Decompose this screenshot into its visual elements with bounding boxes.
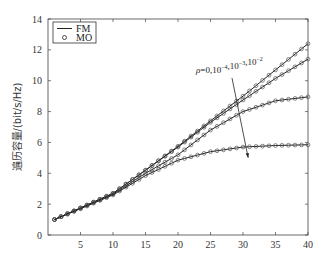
series-1: [53, 57, 310, 221]
series-line: [55, 59, 309, 219]
y-tick-label: 8: [37, 106, 42, 117]
annotation-base: =0,10: [200, 65, 221, 75]
annotation-text: ρ=0,10−4,10−3,10−2: [195, 56, 263, 75]
annotation-base: ,10: [245, 57, 257, 67]
x-tick-label: 25: [206, 239, 216, 250]
annotation-exponent: −2: [256, 56, 262, 62]
series-layer: [53, 42, 310, 222]
y-tick-label: 12: [32, 44, 42, 55]
x-tick-label: 20: [173, 239, 183, 250]
annotation-arrow-line: [232, 78, 248, 158]
x-tick-label: 35: [271, 239, 281, 250]
series-line: [55, 44, 309, 220]
legend-label-mo: MO: [76, 32, 92, 43]
axes-frame: [48, 19, 308, 235]
y-tick-label: 14: [32, 14, 42, 25]
x-tick-label: 5: [78, 239, 83, 250]
chart: 51015202530354002468101214 ρ=0,10−4,10−3…: [0, 0, 331, 263]
data-point: [53, 218, 57, 222]
x-tick-label: 40: [303, 239, 313, 250]
axis-ticks: 51015202530354002468101214: [32, 14, 313, 251]
y-axis-label: 遍历容量/(bit/s/Hz): [11, 82, 23, 171]
series-line: [55, 145, 309, 220]
series-2: [53, 95, 310, 221]
plot-area-border: [48, 19, 308, 235]
x-tick-label: 15: [141, 239, 151, 250]
legend: FM MO: [53, 22, 96, 43]
y-tick-label: 10: [32, 75, 42, 86]
y-tick-label: 0: [37, 230, 42, 241]
series-0: [53, 42, 310, 222]
series-3: [53, 143, 310, 222]
y-tick-label: 2: [37, 199, 42, 210]
annotation-base: ,10: [228, 61, 240, 71]
y-tick-label: 4: [37, 168, 42, 179]
y-tick-label: 6: [37, 137, 42, 148]
x-tick-label: 30: [238, 239, 248, 250]
x-tick-label: 10: [108, 239, 118, 250]
